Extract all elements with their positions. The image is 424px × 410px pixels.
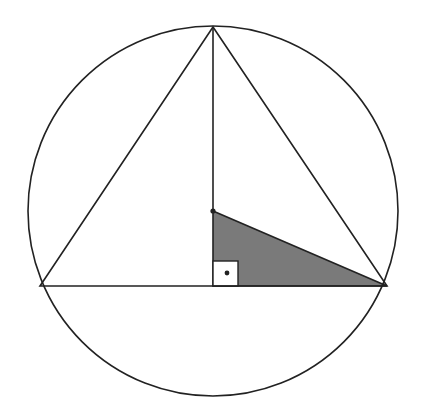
right-angle-dot [225,271,230,276]
center-point [210,208,215,213]
geometry-diagram [0,0,424,410]
